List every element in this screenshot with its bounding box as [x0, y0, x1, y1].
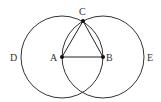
- label-c: C: [79, 6, 86, 17]
- label-b: B: [106, 52, 113, 63]
- label-d: D: [10, 52, 17, 63]
- segment-bc: [83, 21, 103, 57]
- segment-ac: [62, 21, 83, 57]
- point-b: [101, 55, 105, 59]
- point-a: [60, 55, 64, 59]
- label-a: A: [50, 52, 58, 63]
- equilateral-triangle-construction-diagram: C A B D E: [0, 0, 161, 102]
- point-c: [81, 19, 85, 23]
- label-e: E: [147, 52, 153, 63]
